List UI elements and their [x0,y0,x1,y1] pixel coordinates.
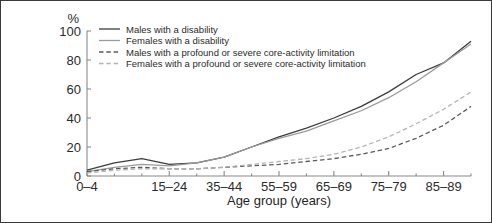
line-chart: % 020406080100 0–415–2435–4455–5965–6975… [1,1,492,223]
x-tick-label: 65–69 [316,179,352,194]
x-axis-title: Age group (years) [227,193,331,208]
y-tick-label: 20 [67,140,81,155]
y-tick-group: 020406080100 [59,24,91,184]
chart-legend: Males with a disabilityFemales with a di… [99,24,366,70]
x-tick-label: 55–59 [261,179,297,194]
x-tick-group [87,171,471,176]
x-tick-label: 35–44 [206,179,242,194]
legend-label-3: Females with a profound or severe core-a… [126,58,366,69]
legend-label-2: Males with a profound or severe core-act… [126,47,355,58]
x-tick-label-group: 0–415–2435–4455–5965–6975–7985–89 [76,179,462,194]
y-tick-label: 80 [67,53,81,68]
y-tick-label: 100 [59,24,81,39]
x-tick-label: 0–4 [76,179,98,194]
x-tick-label: 15–24 [151,179,187,194]
series-line-3 [87,92,471,173]
x-tick-label: 75–79 [371,179,407,194]
legend-label-1: Females with a disability [126,35,229,46]
chart-figure: % 020406080100 0–415–2435–4455–5965–6975… [0,0,492,223]
x-tick-label: 85–89 [425,179,461,194]
y-tick-label: 60 [67,82,81,97]
legend-label-0: Males with a disability [126,24,218,35]
y-tick-label: 40 [67,111,81,126]
